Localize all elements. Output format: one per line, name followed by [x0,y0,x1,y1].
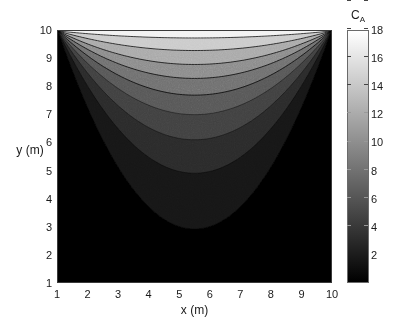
y-tick-label: 7 [46,108,52,120]
x-tick-label: 5 [176,288,182,300]
colorbar-title: CA [336,8,380,24]
colorbar-tick-mark [347,56,351,57]
plot-area [57,30,332,283]
colorbar-tick-label: 14 [371,80,383,92]
colorbar-tick-mark [347,112,351,113]
contour-figure: 12345678910 12345678910 x (m) y (m) CA 2… [0,0,410,327]
colorbar-tick-mark [347,84,351,85]
colorbar-tick-label: 2 [371,249,377,261]
colorbar-tick-mark [364,28,368,29]
y-tick-label: 10 [40,24,52,36]
x-axis-tick-labels: 12345678910 [57,286,332,304]
colorbar-tick-mark [364,225,368,226]
colorbar-tick-mark [364,112,368,113]
colorbar-tick-mark [364,56,368,57]
colorbar-tick-label: 4 [371,221,377,233]
colorbar-gradient [348,31,368,282]
x-tick-label: 2 [84,288,90,300]
x-tick-label: 9 [298,288,304,300]
x-tick-label: 7 [237,288,243,300]
colorbar-tick-mark [364,0,368,1]
colorbar-tick-mark [364,84,368,85]
y-tick-label: 2 [46,249,52,261]
colorbar-tick-label: 16 [371,52,383,64]
x-tick-label: 6 [207,288,213,300]
y-tick-label: 5 [46,165,52,177]
contour-plot [58,31,331,282]
colorbar-tick-label: 10 [371,136,383,148]
colorbar-tick-mark [347,225,351,226]
colorbar-tick-mark [364,169,368,170]
colorbar-tick-mark [364,197,368,198]
x-axis-label: x (m) [57,303,332,317]
x-tick-label: 8 [268,288,274,300]
colorbar-tick-mark [347,169,351,170]
colorbar-tick-label: 6 [371,193,377,205]
y-tick-label: 1 [46,277,52,289]
colorbar-tick-label: 12 [371,108,383,120]
y-tick-label: 3 [46,221,52,233]
colorbar-tick-mark [347,141,351,142]
y-tick-label: 8 [46,80,52,92]
colorbar-tick-mark [364,141,368,142]
x-tick-label: 1 [54,288,60,300]
y-tick-label: 4 [46,193,52,205]
colorbar-tick-label: 8 [371,165,377,177]
x-tick-label: 3 [115,288,121,300]
colorbar-tick-mark [347,197,351,198]
colorbar-tick-label: 18 [371,24,383,36]
colorbar [347,30,369,283]
x-tick-label: 4 [146,288,152,300]
colorbar-tick-mark [347,28,351,29]
contour-bands [58,31,331,282]
y-tick-label: 9 [46,52,52,64]
colorbar-title-subscript: A [360,15,365,24]
y-axis-label: y (m) [6,143,54,157]
colorbar-tick-labels: 24681012141618 [371,30,405,283]
colorbar-tick-mark [347,0,351,1]
colorbar-title-main: C [351,8,360,22]
x-tick-label: 10 [326,288,338,300]
